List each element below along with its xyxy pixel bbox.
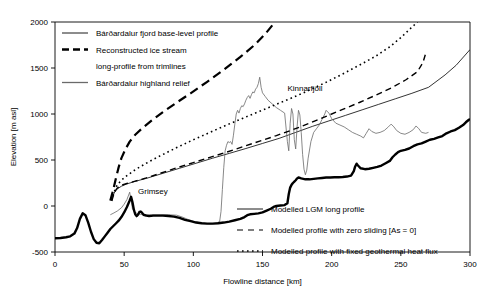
legend-top-label-3: Bárðardalur highland relief [96, 79, 191, 88]
legend-bottom-label-0: Modelled LGM long profile [271, 205, 365, 214]
y-tick-label: 2000 [30, 18, 48, 27]
x-axis-title: Flowline distance [km] [223, 277, 302, 286]
x-tick-label: 150 [256, 260, 270, 269]
y-tick-label: -500 [32, 248, 49, 257]
y-tick-label: 1000 [30, 110, 48, 119]
x-tick-label: 300 [463, 260, 477, 269]
legend-top-label-1: Reconstructed ice stream [96, 46, 187, 55]
x-tick-label: 50 [120, 260, 129, 269]
plot-area [55, 22, 470, 252]
y-tick-label: 500 [35, 156, 49, 165]
x-tick-label: 250 [394, 260, 408, 269]
y-tick-label: 0 [44, 202, 49, 211]
y-axis-title: Elevation [m asl] [9, 108, 18, 167]
legend-top-label-2: long-profile from trimlines [96, 62, 186, 71]
chart-canvas: -5000500100015002000050100150200250300Fl… [0, 0, 491, 300]
legend-top-label-0: Bárðardalur fjord base-level profile [96, 29, 219, 38]
legend-bottom-label-1: Modelled profile with zero sliding [As =… [271, 226, 416, 235]
annotation-0: Grimsey [138, 187, 168, 196]
x-tick-label: 100 [187, 260, 201, 269]
legend-bottom-label-2: Modelled profile with fixed geothermal h… [271, 247, 438, 256]
chart-figure: -5000500100015002000050100150200250300Fl… [0, 0, 491, 300]
y-tick-label: 1500 [30, 64, 48, 73]
x-tick-label: 0 [53, 260, 58, 269]
annotation-1: Kinnarfjöll [287, 84, 322, 93]
x-tick-label: 200 [325, 260, 339, 269]
